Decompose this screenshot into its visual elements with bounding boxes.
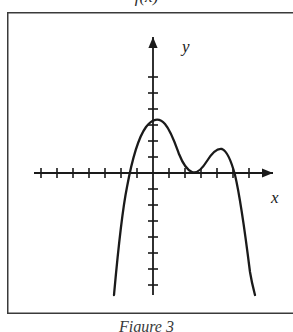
figure-container: f(x)	[0, 0, 293, 332]
y-axis-label: y	[180, 37, 190, 56]
x-axis-label: x	[270, 188, 279, 207]
top-caption-text: f(x)	[0, 0, 293, 9]
figure-caption: Figure 3	[0, 318, 293, 332]
graph-canvas: y x	[7, 12, 293, 314]
plot-frame: y x	[7, 12, 293, 314]
